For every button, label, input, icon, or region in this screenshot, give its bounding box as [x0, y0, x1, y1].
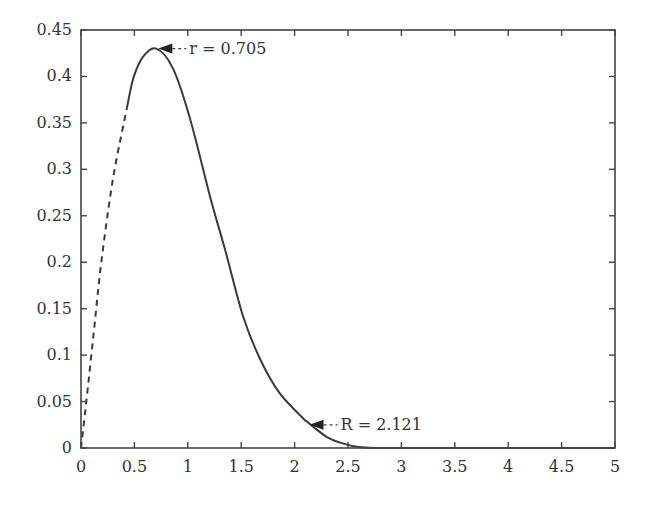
x-tick-label: 4 [503, 457, 513, 476]
chart: 00.511.522.533.544.55 00.050.10.150.20.2… [0, 0, 653, 508]
y-tick-label: 0 [62, 438, 72, 457]
x-tick-label: 3.5 [442, 457, 467, 476]
x-axis-ticks: 00.511.522.533.544.55 [76, 30, 620, 476]
y-axis-ticks: 00.050.10.150.20.250.30.350.40.45 [36, 20, 615, 457]
plot-frame [81, 30, 615, 448]
x-tick-label: 1 [183, 457, 193, 476]
x-tick-label: 5 [610, 457, 620, 476]
y-tick-label: 0.1 [47, 345, 72, 364]
y-tick-label: 0.4 [47, 66, 72, 85]
x-tick-label: 3 [396, 457, 406, 476]
plot-curves [81, 48, 615, 448]
x-tick-label: 2 [290, 457, 300, 476]
x-tick-label: 0 [76, 457, 86, 476]
solid-curve [127, 48, 615, 448]
annotation-label: r = 0.705 [189, 39, 266, 58]
annotation: R = 2.121 [310, 415, 422, 434]
x-tick-label: 2.5 [335, 457, 360, 476]
annotation: r = 0.705 [158, 39, 266, 58]
y-tick-label: 0.15 [36, 299, 72, 318]
y-tick-label: 0.3 [47, 159, 72, 178]
x-tick-label: 4.5 [549, 457, 574, 476]
x-tick-label: 1.5 [228, 457, 253, 476]
y-tick-label: 0.2 [47, 252, 72, 271]
annotation-label: R = 2.121 [341, 415, 422, 434]
annotations: r = 0.705R = 2.121 [158, 39, 422, 434]
y-tick-label: 0.35 [36, 113, 72, 132]
x-tick-label: 0.5 [122, 457, 147, 476]
dashed-curve [81, 108, 127, 448]
y-tick-label: 0.45 [36, 20, 72, 39]
y-tick-label: 0.05 [36, 392, 72, 411]
y-tick-label: 0.25 [36, 206, 72, 225]
